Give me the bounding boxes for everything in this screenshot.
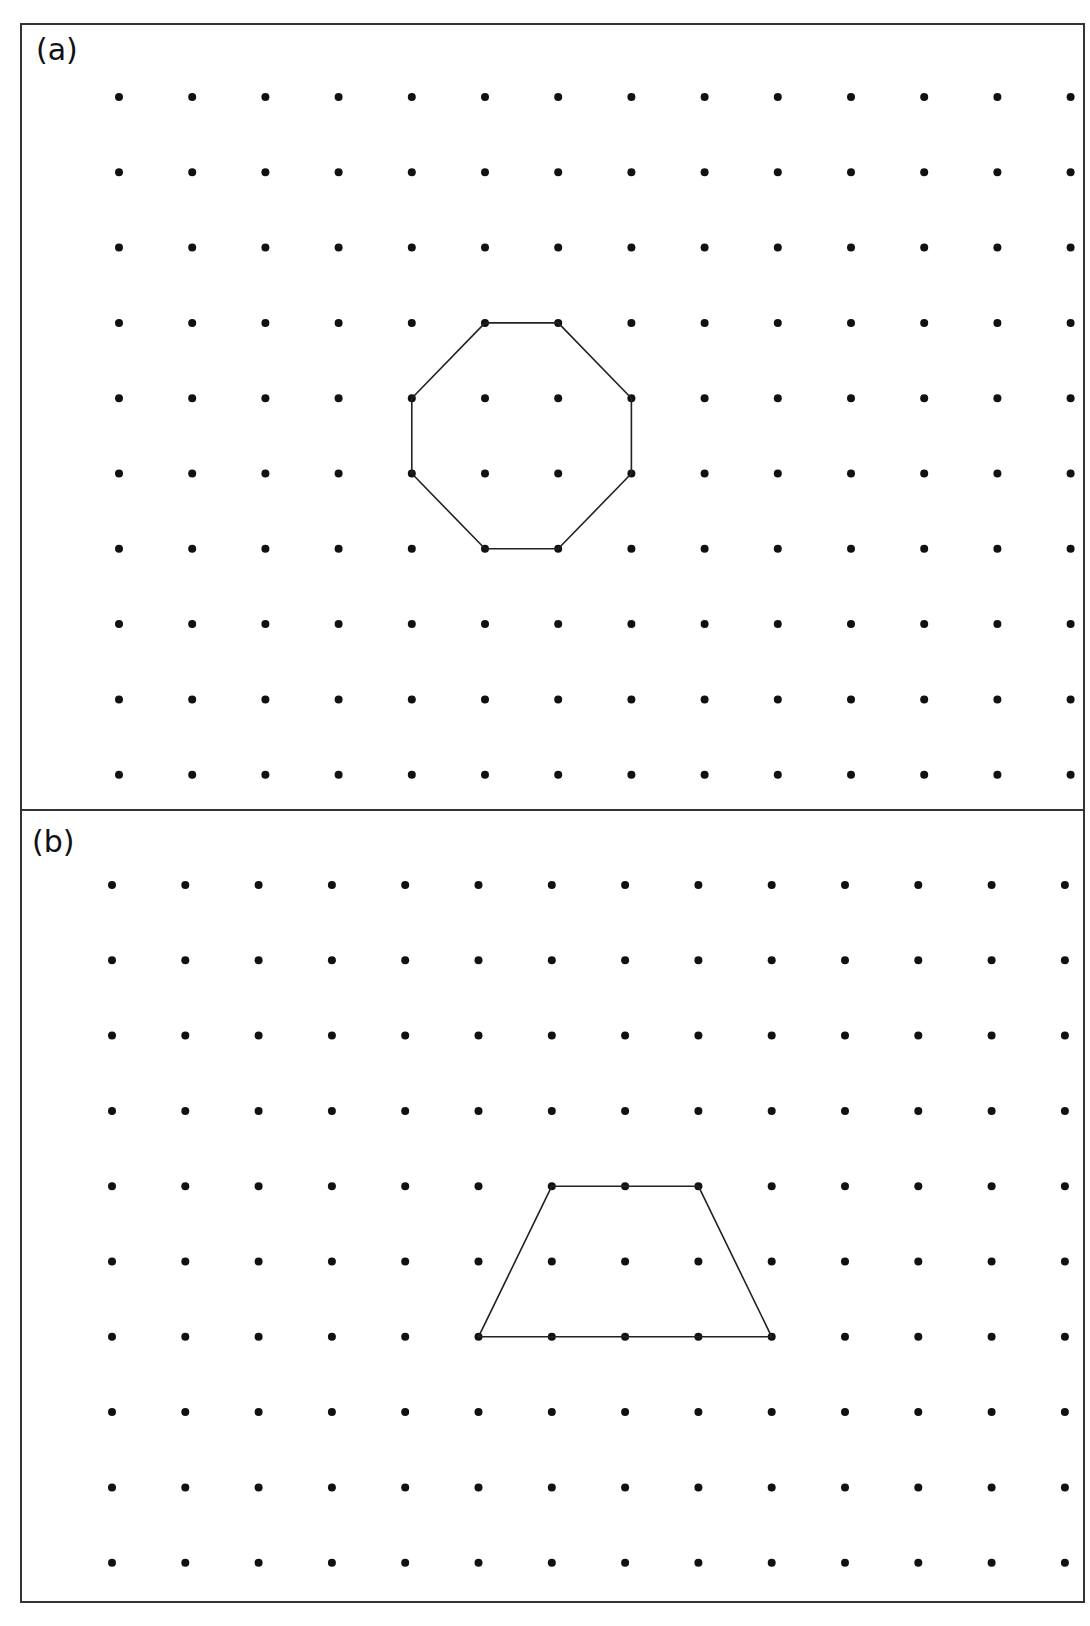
grid-dot (181, 956, 189, 964)
grid-dot (115, 244, 123, 252)
grid-dot (694, 1559, 702, 1567)
grid-dot (188, 394, 196, 402)
grid-dot (1067, 93, 1075, 101)
grid-dot (481, 771, 489, 779)
grid-dot (115, 695, 123, 703)
grid-dot (401, 1408, 409, 1416)
grid-dot (328, 1107, 336, 1115)
grid-dot (847, 394, 855, 402)
grid-dot (261, 244, 269, 252)
grid-dot (261, 93, 269, 101)
grid-dot (475, 881, 483, 889)
grid-dot (335, 244, 343, 252)
grid-dot (914, 1559, 922, 1567)
grid-dot (993, 470, 1001, 478)
grid-dot (1061, 881, 1069, 889)
grid-dot (328, 1483, 336, 1491)
grid-dot (988, 1333, 996, 1341)
grid-dot (255, 881, 263, 889)
grid-dot (694, 1032, 702, 1040)
grid-dot (841, 1333, 849, 1341)
grid-dot (774, 93, 782, 101)
grid-dot (108, 881, 116, 889)
grid-dot (1067, 695, 1075, 703)
grid-dot (988, 1258, 996, 1266)
grid-dot (255, 1182, 263, 1190)
grid-dot (108, 1258, 116, 1266)
grid-dot (694, 1483, 702, 1491)
grid-dot (993, 771, 1001, 779)
grid-dot (475, 1107, 483, 1115)
grid-dot (847, 771, 855, 779)
grid-dot (475, 1032, 483, 1040)
dot-grid-figure: (a) (b) (0, 0, 1090, 1626)
grid-dot (255, 1107, 263, 1115)
grid-dot (335, 394, 343, 402)
grid-dot (475, 1559, 483, 1567)
grid-dot (988, 1483, 996, 1491)
grid-dot (694, 956, 702, 964)
grid-dot (115, 168, 123, 176)
grid-dot (108, 1559, 116, 1567)
grid-dot (988, 1408, 996, 1416)
grid-dot (988, 881, 996, 889)
grid-dot (401, 956, 409, 964)
grid-dot (328, 1182, 336, 1190)
grid-dot (548, 1032, 556, 1040)
grid-dot (115, 319, 123, 327)
grid-dot (774, 244, 782, 252)
grid-dot (255, 1258, 263, 1266)
grid-dot (988, 1107, 996, 1115)
grid-dot (115, 771, 123, 779)
grid-dot (920, 620, 928, 628)
grid-dot (1067, 319, 1075, 327)
grid-dot (1061, 1559, 1069, 1567)
grid-dot (774, 695, 782, 703)
grid-dot (621, 1258, 629, 1266)
grid-dot (188, 695, 196, 703)
grid-dot (408, 620, 416, 628)
grid-dot (1061, 1408, 1069, 1416)
grid-dot (701, 244, 709, 252)
panel-a: (a) (36, 32, 1075, 779)
grid-dot (261, 470, 269, 478)
grid-dot (1067, 244, 1075, 252)
grid-dot (768, 1408, 776, 1416)
grid-dot (914, 1032, 922, 1040)
grid-dot (401, 1182, 409, 1190)
grid-dot (548, 1408, 556, 1416)
grid-dot (621, 1408, 629, 1416)
grid-dot (188, 545, 196, 553)
grid-dot (255, 1559, 263, 1567)
grid-dot (694, 1107, 702, 1115)
grid-dot (627, 695, 635, 703)
grid-dot (1067, 620, 1075, 628)
grid-dot (1067, 168, 1075, 176)
grid-dot (841, 1182, 849, 1190)
grid-dot (401, 1483, 409, 1491)
grid-dot (188, 771, 196, 779)
grid-dot (328, 1333, 336, 1341)
grid-dot (335, 695, 343, 703)
grid-dot (993, 244, 1001, 252)
grid-dot (774, 470, 782, 478)
grid-dot (181, 1032, 189, 1040)
grid-dot (115, 470, 123, 478)
grid-dot (335, 93, 343, 101)
grid-dot (481, 394, 489, 402)
grid-dot (401, 881, 409, 889)
panel-b: (b) (32, 824, 1069, 1567)
grid-dot (841, 1032, 849, 1040)
grid-dot (768, 1107, 776, 1115)
grid-dot (115, 545, 123, 553)
grid-dot (993, 168, 1001, 176)
grid-dot (1061, 1182, 1069, 1190)
grid-dot (914, 1182, 922, 1190)
grid-dot (847, 695, 855, 703)
grid-dot (335, 470, 343, 478)
grid-dot (768, 1559, 776, 1567)
grid-dot (554, 771, 562, 779)
grid-dot (701, 695, 709, 703)
grid-dot (914, 1333, 922, 1341)
grid-dot (481, 93, 489, 101)
